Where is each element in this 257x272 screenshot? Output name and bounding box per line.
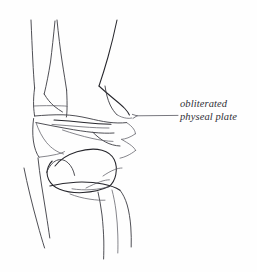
medial-gutter-line (39, 152, 65, 158)
annotation-obliterated-physeal-plate: obliterated physeal plate (180, 98, 257, 123)
lateral-malleolus-ridge-d (120, 150, 136, 158)
annotation-label-line-2: physeal plate (180, 111, 257, 124)
talus-inferior-border (47, 161, 109, 193)
lateral-malleolus-ridge-b (122, 134, 136, 140)
lateral-malleolus-ridge-a (127, 123, 136, 134)
annotation-arrowhead-icon (132, 114, 137, 118)
metaphyseal-cortex-left (34, 106, 68, 107)
distal-fibula-lateral-flare (66, 90, 67, 117)
calcaneus-inner-trabecular-line (112, 190, 118, 253)
achilles-shadow-line (98, 192, 104, 259)
sinus-tarsi-line (86, 180, 109, 188)
annotation-label-line-1: obliterated (180, 98, 257, 111)
tibia-shaft-medial-border (57, 20, 67, 90)
medial-malleolus-overlap (33, 119, 39, 158)
lateral-malleolus-outer (99, 86, 129, 115)
obliterated-physeal-line (54, 120, 111, 124)
calcaneus-lateral-wall (120, 190, 131, 247)
distal-fibula-medial-flare (44, 94, 62, 112)
medial-malleolus (34, 88, 35, 116)
figure-canvas: obliterated physeal plate (0, 0, 257, 272)
fibula-shaft-medial-border (44, 21, 55, 94)
talar-head-faint-line (103, 168, 122, 176)
ankle-line-drawing (0, 0, 257, 272)
fibula-shaft-lateral-border (31, 20, 35, 88)
talus-body-outline (55, 149, 116, 186)
soft-tissue-outline-left-upper (24, 168, 45, 248)
lateral-malleolus-ridge-c (122, 139, 136, 150)
tibia-shaft-lateral-border (99, 20, 117, 86)
